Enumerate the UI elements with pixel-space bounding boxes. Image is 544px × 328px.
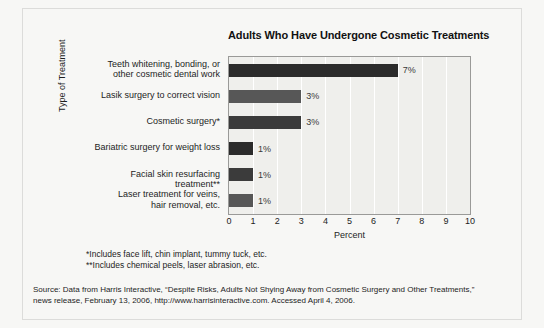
bar-value-label: 7% bbox=[403, 65, 416, 75]
x-tick-label: 0 bbox=[226, 216, 231, 226]
x-axis-title: Percent bbox=[228, 230, 471, 240]
source-line: news release, February 13, 2006, http://… bbox=[33, 296, 513, 307]
bar bbox=[229, 168, 253, 181]
x-tick-label: 10 bbox=[465, 216, 475, 226]
chart-figure: Adults Who Have Undergone Cosmetic Treat… bbox=[0, 0, 544, 328]
source-line: Source: Data from Harris Interactive, “D… bbox=[33, 285, 513, 296]
plot-area: 7%3%3%1%1%1% bbox=[228, 56, 471, 215]
category-label: Teeth whitening, bonding, or other cosme… bbox=[107, 59, 220, 80]
x-tick-label: 5 bbox=[347, 216, 352, 226]
bar bbox=[229, 194, 253, 207]
category-label: Cosmetic surgery* bbox=[146, 116, 220, 127]
bar-row: 1% bbox=[229, 168, 470, 181]
x-tick-label: 2 bbox=[275, 216, 280, 226]
bar-series: 7%3%3%1%1%1% bbox=[229, 57, 470, 214]
x-tick-label: 3 bbox=[299, 216, 304, 226]
bar-value-label: 1% bbox=[258, 196, 271, 206]
footnote-list: *Includes face lift, chin implant, tummy… bbox=[86, 249, 267, 271]
bar bbox=[229, 142, 253, 155]
bar-row: 1% bbox=[229, 142, 470, 155]
bar-value-label: 1% bbox=[258, 170, 271, 180]
category-label: Facial skin resurfacing treatment** bbox=[88, 169, 220, 190]
x-tick-label: 4 bbox=[323, 216, 328, 226]
x-tick-label: 9 bbox=[443, 216, 448, 226]
x-tick-label: 6 bbox=[371, 216, 376, 226]
x-axis-ticks: 012345678910 bbox=[228, 216, 471, 230]
bar-value-label: 1% bbox=[258, 144, 271, 154]
category-label: Lasik surgery to correct vision bbox=[101, 90, 220, 101]
bar-row: 1% bbox=[229, 194, 470, 207]
bar bbox=[229, 90, 301, 103]
chart-title: Adults Who Have Undergone Cosmetic Treat… bbox=[228, 29, 489, 41]
bar-value-label: 3% bbox=[306, 117, 319, 127]
x-tick-label: 8 bbox=[419, 216, 424, 226]
bar bbox=[229, 64, 398, 77]
category-label: Laser treatment for veins, hair removal,… bbox=[118, 189, 220, 210]
bar-row: 7% bbox=[229, 64, 470, 77]
bar-row: 3% bbox=[229, 116, 470, 129]
x-tick-label: 1 bbox=[251, 216, 256, 226]
bar-row: 3% bbox=[229, 90, 470, 103]
bar-value-label: 3% bbox=[306, 91, 319, 101]
category-label-list: Teeth whitening, bonding, or other cosme… bbox=[88, 56, 224, 215]
category-label: Bariatric surgery for weight loss bbox=[94, 142, 220, 153]
y-axis-title: Type of Treatment bbox=[57, 96, 67, 112]
footnote: *Includes face lift, chin implant, tummy… bbox=[86, 249, 267, 260]
source-note: Source: Data from Harris Interactive, “D… bbox=[33, 285, 513, 306]
footnote: **Includes chemical peels, laser abrasio… bbox=[86, 260, 267, 271]
bar bbox=[229, 116, 301, 129]
x-tick-label: 7 bbox=[395, 216, 400, 226]
